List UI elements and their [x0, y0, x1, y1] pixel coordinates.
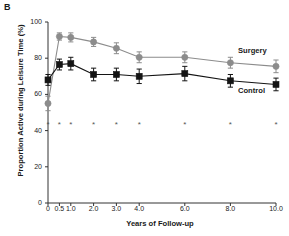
data-point [68, 61, 74, 67]
data-point [182, 71, 188, 77]
data-point [113, 45, 119, 51]
data-point [227, 78, 233, 84]
data-point [182, 54, 188, 60]
series-label-surgery: Surgery [238, 46, 267, 55]
data-point [113, 71, 119, 77]
data-point [91, 39, 97, 45]
significance-asterisk: * [183, 120, 186, 129]
panel-label: B [4, 2, 11, 12]
significance-markers: ********* [46, 120, 277, 129]
y-tick-label: 20 [20, 163, 42, 171]
x-tick-label: 6.0 [172, 205, 198, 213]
data-point [91, 71, 97, 77]
series-surgery [45, 33, 279, 111]
data-point [56, 62, 62, 68]
data-point [227, 60, 233, 66]
data-point [273, 81, 279, 87]
significance-asterisk: * [274, 120, 277, 129]
data-point [136, 73, 142, 79]
x-axis-title: Years of Follow-up [40, 219, 280, 228]
y-tick-label: 100 [20, 18, 42, 26]
x-tick-label: 8.0 [217, 205, 243, 213]
significance-asterisk: * [115, 120, 118, 129]
series-label-control: Control [238, 86, 265, 95]
x-tick-label: 4.0 [126, 205, 152, 213]
data-point [136, 54, 142, 60]
data-point [68, 34, 74, 40]
significance-asterisk: * [92, 120, 95, 129]
y-tick-label: 40 [20, 127, 42, 135]
data-point [45, 100, 51, 106]
y-tick-label: 60 [20, 90, 42, 98]
data-point [45, 77, 51, 83]
data-series [45, 33, 279, 111]
significance-asterisk: * [46, 120, 49, 129]
data-point [56, 33, 62, 39]
significance-asterisk: * [138, 120, 141, 129]
x-tick-label: 10.0 [263, 205, 289, 213]
significance-asterisk: * [58, 120, 61, 129]
y-tick-label: 80 [20, 54, 42, 62]
chart-figure: B Proportion Active during Leisure Time … [0, 0, 289, 236]
significance-asterisk: * [229, 120, 232, 129]
plot-area: ********* [0, 0, 289, 236]
significance-asterisk: * [69, 120, 72, 129]
data-point [273, 63, 279, 69]
